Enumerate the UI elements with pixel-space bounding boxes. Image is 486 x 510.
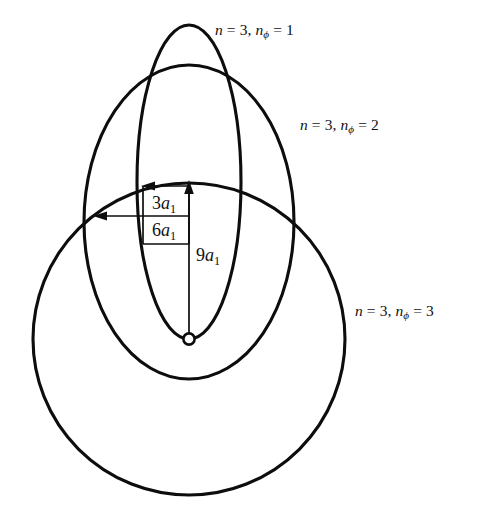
orbit-label-nphi-3-eq1: = 3, xyxy=(363,302,396,319)
orbit-label-nphi-1-n: n xyxy=(215,21,223,38)
orbit-label-nphi-1-eq2: = 1 xyxy=(269,21,294,38)
dimension-label-3a1: 3a1 xyxy=(152,194,176,215)
orbit-label-nphi-1-eq1: = 3, xyxy=(223,21,256,38)
dimension-label-6a1-symbol: a xyxy=(161,220,170,240)
dimension-label-3a1-symbol: a xyxy=(161,193,170,213)
dimension-label-3a1-coeff: 3 xyxy=(152,193,161,213)
orbit-label-nphi-2-n: n xyxy=(300,116,308,133)
orbit-label-nphi-1: n = 3, nϕ = 1 xyxy=(215,22,294,40)
orbit-label-nphi-3: n = 3, nϕ = 3 xyxy=(355,303,434,321)
dimension-label-6a1-coeff: 6 xyxy=(152,220,161,240)
dimension-label-9a1-subscript: 1 xyxy=(214,254,220,268)
dimension-label-6a1-subscript: 1 xyxy=(170,229,176,243)
dimension-label-9a1: 9a1 xyxy=(196,246,220,267)
orbit-label-nphi-2-eq1: = 3, xyxy=(308,116,341,133)
dimension-label-3a1-subscript: 1 xyxy=(170,202,176,216)
orbit-label-nphi-2: n = 3, nϕ = 2 xyxy=(300,117,379,135)
dimension-label-9a1-coeff: 9 xyxy=(196,245,205,265)
figure-canvas: n = 3, nϕ = 1 n = 3, nϕ = 2 n = 3, nϕ = … xyxy=(0,0,486,510)
orbit-label-nphi-2-eq2: = 2 xyxy=(354,116,379,133)
dimension-label-9a1-symbol: a xyxy=(205,245,214,265)
orbit-label-nphi-3-n: n xyxy=(355,302,363,319)
nucleus-marker xyxy=(183,333,194,344)
dimension-label-6a1: 6a1 xyxy=(152,221,176,242)
orbit-label-nphi-3-eq2: = 3 xyxy=(409,302,434,319)
orbit-diagram xyxy=(0,0,486,510)
